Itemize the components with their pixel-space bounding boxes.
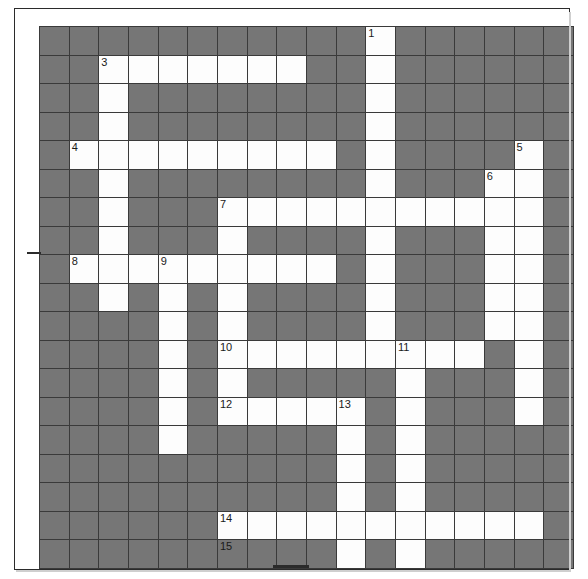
crossword-cell[interactable] bbox=[425, 198, 455, 227]
crossword-cell[interactable] bbox=[247, 55, 277, 84]
crossword-cell[interactable] bbox=[455, 198, 485, 227]
crossword-cell[interactable] bbox=[514, 255, 544, 284]
crossword-cell[interactable] bbox=[455, 511, 485, 540]
crossword-cell[interactable] bbox=[277, 255, 307, 284]
crossword-cell[interactable] bbox=[128, 255, 158, 284]
crossword-cell[interactable] bbox=[484, 312, 514, 341]
crossword-cell[interactable] bbox=[188, 255, 218, 284]
crossword-cell[interactable]: 11 bbox=[395, 340, 425, 369]
crossword-cell[interactable]: 13 bbox=[336, 397, 366, 426]
crossword-grid[interactable]: 13456789101112131415 bbox=[39, 26, 574, 569]
crossword-cell[interactable] bbox=[514, 169, 544, 198]
crossword-cell[interactable] bbox=[247, 511, 277, 540]
crossword-cell[interactable] bbox=[366, 84, 396, 113]
crossword-cell[interactable] bbox=[188, 55, 218, 84]
crossword-cell[interactable] bbox=[247, 198, 277, 227]
crossword-cell[interactable] bbox=[277, 397, 307, 426]
crossword-cell[interactable] bbox=[217, 283, 247, 312]
crossword-cell[interactable] bbox=[366, 226, 396, 255]
crossword-cell[interactable] bbox=[484, 198, 514, 227]
crossword-cell[interactable] bbox=[306, 198, 336, 227]
crossword-cell[interactable] bbox=[395, 511, 425, 540]
crossword-cell[interactable] bbox=[366, 141, 396, 170]
crossword-cell[interactable] bbox=[247, 340, 277, 369]
crossword-cell[interactable] bbox=[514, 198, 544, 227]
crossword-cell[interactable] bbox=[188, 141, 218, 170]
crossword-cell[interactable] bbox=[158, 312, 188, 341]
crossword-cell[interactable] bbox=[336, 540, 366, 569]
crossword-cell[interactable] bbox=[247, 397, 277, 426]
crossword-cell[interactable]: 8 bbox=[69, 255, 99, 284]
crossword-cell[interactable] bbox=[217, 255, 247, 284]
crossword-cell[interactable] bbox=[158, 340, 188, 369]
crossword-cell[interactable] bbox=[514, 283, 544, 312]
crossword-cell[interactable] bbox=[484, 226, 514, 255]
crossword-cell[interactable] bbox=[366, 198, 396, 227]
crossword-cell[interactable] bbox=[158, 426, 188, 455]
crossword-cell[interactable] bbox=[336, 426, 366, 455]
crossword-cell[interactable] bbox=[395, 369, 425, 398]
crossword-cell[interactable] bbox=[514, 369, 544, 398]
crossword-cell[interactable] bbox=[247, 255, 277, 284]
crossword-cell[interactable]: 7 bbox=[217, 198, 247, 227]
crossword-cell[interactable] bbox=[158, 369, 188, 398]
crossword-cell[interactable] bbox=[366, 169, 396, 198]
crossword-cell[interactable] bbox=[158, 55, 188, 84]
crossword-cell[interactable] bbox=[514, 397, 544, 426]
crossword-cell[interactable] bbox=[366, 255, 396, 284]
crossword-cell[interactable] bbox=[514, 511, 544, 540]
crossword-cell[interactable] bbox=[366, 283, 396, 312]
crossword-cell[interactable] bbox=[395, 483, 425, 512]
crossword-cell[interactable]: 3 bbox=[99, 55, 129, 84]
crossword-cell[interactable]: 5 bbox=[514, 141, 544, 170]
crossword-cell[interactable] bbox=[514, 340, 544, 369]
crossword-cell[interactable] bbox=[395, 540, 425, 569]
crossword-cell[interactable]: 10 bbox=[217, 340, 247, 369]
crossword-cell[interactable] bbox=[395, 397, 425, 426]
crossword-cell[interactable] bbox=[99, 226, 129, 255]
crossword-cell[interactable] bbox=[277, 340, 307, 369]
crossword-cell[interactable]: 6 bbox=[484, 169, 514, 198]
crossword-cell[interactable] bbox=[277, 198, 307, 227]
crossword-cell[interactable] bbox=[99, 84, 129, 113]
crossword-cell[interactable] bbox=[336, 511, 366, 540]
crossword-cell[interactable] bbox=[158, 397, 188, 426]
crossword-cell[interactable] bbox=[366, 340, 396, 369]
crossword-cell[interactable] bbox=[336, 340, 366, 369]
crossword-cell[interactable] bbox=[277, 511, 307, 540]
crossword-cell[interactable] bbox=[217, 226, 247, 255]
crossword-cell[interactable] bbox=[306, 255, 336, 284]
crossword-cell[interactable] bbox=[395, 198, 425, 227]
crossword-cell[interactable] bbox=[366, 312, 396, 341]
crossword-cell[interactable] bbox=[99, 112, 129, 141]
crossword-cell[interactable] bbox=[306, 340, 336, 369]
crossword-cell[interactable] bbox=[217, 312, 247, 341]
crossword-cell[interactable] bbox=[217, 141, 247, 170]
crossword-cell[interactable] bbox=[158, 283, 188, 312]
crossword-cell[interactable] bbox=[484, 283, 514, 312]
crossword-cell[interactable] bbox=[99, 198, 129, 227]
crossword-cell[interactable] bbox=[484, 511, 514, 540]
crossword-cell[interactable] bbox=[99, 141, 129, 170]
crossword-cell[interactable] bbox=[366, 511, 396, 540]
crossword-cell[interactable] bbox=[514, 226, 544, 255]
crossword-cell[interactable] bbox=[455, 340, 485, 369]
crossword-cell[interactable] bbox=[366, 55, 396, 84]
crossword-cell[interactable] bbox=[128, 141, 158, 170]
crossword-cell[interactable] bbox=[158, 141, 188, 170]
crossword-cell[interactable]: 1 bbox=[366, 27, 396, 56]
crossword-cell[interactable] bbox=[395, 426, 425, 455]
crossword-cell[interactable] bbox=[99, 169, 129, 198]
crossword-cell[interactable] bbox=[247, 141, 277, 170]
crossword-cell[interactable] bbox=[484, 255, 514, 284]
crossword-cell[interactable] bbox=[277, 141, 307, 170]
crossword-cell[interactable] bbox=[99, 255, 129, 284]
crossword-cell[interactable] bbox=[514, 312, 544, 341]
crossword-cell[interactable] bbox=[425, 340, 455, 369]
crossword-cell[interactable] bbox=[336, 454, 366, 483]
crossword-cell[interactable] bbox=[306, 511, 336, 540]
crossword-cell[interactable] bbox=[99, 283, 129, 312]
crossword-cell[interactable]: 4 bbox=[69, 141, 99, 170]
crossword-cell[interactable] bbox=[336, 198, 366, 227]
crossword-cell[interactable]: 12 bbox=[217, 397, 247, 426]
